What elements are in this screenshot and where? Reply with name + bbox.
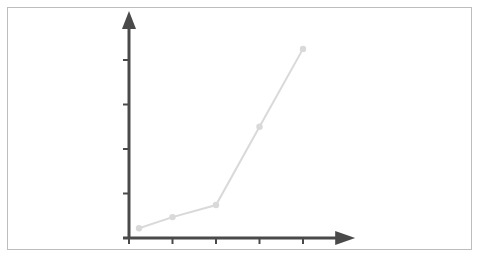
data-point bbox=[136, 225, 142, 231]
data-point bbox=[300, 46, 306, 52]
axes bbox=[122, 11, 355, 245]
x-axis-arrow-icon bbox=[335, 231, 355, 245]
series-line bbox=[139, 49, 303, 228]
data-point bbox=[169, 214, 175, 220]
data-point bbox=[213, 202, 219, 208]
data-point bbox=[256, 124, 262, 130]
y-axis-arrow-icon bbox=[122, 11, 136, 29]
series-group bbox=[136, 46, 306, 232]
line-chart bbox=[0, 0, 481, 259]
